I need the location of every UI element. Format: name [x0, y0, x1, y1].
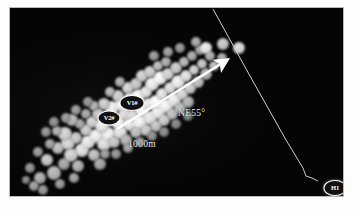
station-marker-v1[interactable]: V1# [120, 95, 145, 111]
station-marker-h1[interactable]: H1 [324, 180, 345, 196]
scene-background: NE55° 1000m V1# V2# H1 [10, 8, 343, 196]
figure-root: NE55° 1000m V1# V2# H1 [0, 0, 353, 210]
map-panel: NE55° 1000m V1# V2# H1 [9, 7, 344, 197]
bearing-arrow [10, 8, 343, 196]
station-marker-v2-label: V2# [104, 115, 115, 122]
bearing-label: NE55° [178, 108, 205, 118]
station-marker-v1-label: V1# [127, 100, 138, 107]
station-marker-h1-label: H1 [331, 185, 339, 192]
station-marker-v2[interactable]: V2# [98, 111, 121, 126]
scale-label: 1000m [128, 139, 156, 149]
